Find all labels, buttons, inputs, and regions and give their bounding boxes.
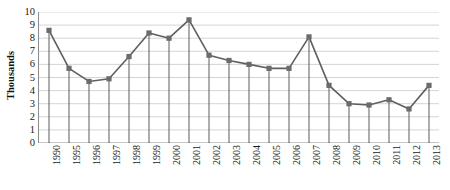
y-axis-tick-label: 5 (30, 72, 35, 83)
data-point-marker (126, 54, 131, 59)
y-axis-tick-label: 9 (30, 20, 35, 31)
data-point-marker (146, 30, 151, 35)
data-point-marker (66, 66, 71, 71)
x-axis-tick-label: 2008 (332, 145, 342, 165)
data-point-marker (326, 83, 331, 88)
x-axis-tick-label: 2012 (412, 145, 422, 165)
y-axis-tick-label: 7 (30, 46, 35, 57)
x-axis-tick-label: 2004 (252, 145, 262, 165)
data-point-marker (306, 34, 311, 39)
x-axis-tick-label: 1995 (72, 145, 82, 165)
line-chart: Thousands 012345678910 19901995199619971… (0, 0, 450, 190)
x-axis-tick-label: 1990 (52, 145, 62, 165)
y-axis-title-label: Thousands (6, 50, 17, 99)
plot-canvas (39, 12, 439, 143)
x-axis-tick-label: 2013 (432, 145, 442, 165)
x-axis-tick-label: 2009 (352, 145, 362, 165)
y-axis-tick-label: 10 (25, 7, 36, 18)
x-axis-tick-label: 1997 (112, 145, 122, 165)
x-axis-tick-label: 2001 (192, 145, 202, 165)
x-axis-tick-label: 2002 (212, 145, 222, 165)
data-point-marker (426, 83, 431, 88)
y-axis-tick-labels: 012345678910 (20, 0, 36, 150)
data-point-marker (386, 97, 391, 102)
data-point-marker (266, 66, 271, 71)
x-axis-tick-label: 2003 (232, 145, 242, 165)
data-point-marker (246, 62, 251, 67)
data-point-marker (206, 53, 211, 58)
data-point-marker (186, 17, 191, 22)
x-axis-tick-labels: 1990199519961997199819992000200120022003… (38, 145, 438, 190)
y-axis-tick-label: 8 (30, 33, 35, 44)
y-axis-tick-label: 0 (30, 138, 35, 149)
data-point-marker (166, 36, 171, 41)
data-point-marker (406, 106, 411, 111)
plot-area (38, 12, 439, 143)
x-axis-tick-label: 2005 (272, 145, 282, 165)
y-axis-tick-label: 1 (30, 125, 35, 136)
y-axis-title: Thousands (0, 0, 22, 150)
y-axis-tick-label: 2 (30, 112, 35, 123)
x-axis-tick-label: 1999 (152, 145, 162, 165)
data-point-marker (226, 58, 231, 63)
x-axis-tick-label: 2007 (312, 145, 322, 165)
data-point-marker (366, 102, 371, 107)
x-axis-tick-label: 2011 (392, 145, 402, 165)
y-axis-tick-label: 6 (30, 59, 35, 70)
data-point-marker (346, 101, 351, 106)
data-point-marker (106, 76, 111, 81)
data-point-marker (46, 28, 51, 33)
x-axis-tick-label: 2000 (172, 145, 182, 165)
y-axis-tick-label: 3 (30, 98, 35, 109)
data-point-marker (86, 79, 91, 84)
gridlines (39, 12, 439, 143)
x-axis-tick-label: 1998 (132, 145, 142, 165)
y-axis-tick-label: 4 (30, 85, 35, 96)
x-axis-tick-label: 2006 (292, 145, 302, 165)
data-point-marker (286, 66, 291, 71)
x-axis-tick-label: 1996 (92, 145, 102, 165)
x-axis-tick-label: 2010 (372, 145, 382, 165)
